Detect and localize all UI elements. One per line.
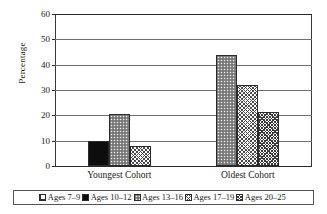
y-tick-label-20: 20 — [41, 111, 50, 120]
y-tick-mark-0 — [52, 166, 55, 167]
y-axis-title: Percentage — [17, 8, 27, 118]
legend: Ages 7–9Ages 10–12Ages 13–16Ages 17–19Ag… — [13, 190, 314, 205]
bar — [88, 141, 109, 166]
bars-row — [184, 14, 313, 166]
legend-item: Ages 13–16 — [134, 193, 185, 202]
legend-item: Ages 7–9 — [39, 193, 82, 202]
category-label: Youngest Cohort — [55, 170, 184, 180]
legend-label: Ages 13–16 — [142, 193, 183, 202]
legend-swatch-icon — [134, 194, 141, 201]
legend-swatch-icon — [39, 194, 46, 201]
legend-label: Ages 20–25 — [245, 193, 286, 202]
bar-group — [184, 14, 313, 166]
legend-item: Ages 17–19 — [185, 193, 236, 202]
legend-swatch-icon — [82, 194, 89, 201]
legend-label: Ages 10–12 — [91, 193, 132, 202]
legend-item: Ages 10–12 — [82, 193, 133, 202]
bars-row — [55, 14, 184, 166]
bar-group — [55, 14, 184, 166]
bar — [109, 114, 130, 166]
gridline-0 — [55, 166, 312, 167]
y-tick-label-50: 50 — [41, 35, 50, 44]
y-tick-label-30: 30 — [41, 86, 50, 95]
category-label: Oldest Cohort — [184, 170, 313, 180]
y-tick-label-60: 60 — [41, 10, 50, 19]
legend-swatch-icon — [236, 194, 243, 201]
bar — [237, 85, 258, 166]
bar — [130, 146, 151, 166]
legend-swatch-icon — [185, 194, 192, 201]
y-tick-label-10: 10 — [41, 136, 50, 145]
y-tick-label-40: 40 — [41, 60, 50, 69]
y-tick-label-0: 0 — [46, 162, 51, 171]
bar — [258, 112, 279, 166]
legend-label: Ages 7–9 — [48, 193, 80, 202]
bar-chart: Percentage 6050403020100 Youngest Cohort… — [0, 0, 327, 214]
legend-label: Ages 17–19 — [193, 193, 234, 202]
plot-area: 6050403020100 — [55, 14, 312, 166]
legend-item: Ages 20–25 — [236, 193, 287, 202]
bar — [216, 55, 237, 166]
